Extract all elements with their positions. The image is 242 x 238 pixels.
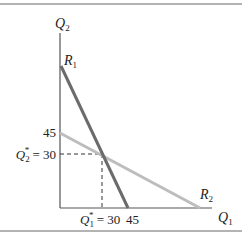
r1-label: R1 xyxy=(63,53,77,70)
x-tick-45: 45 xyxy=(126,212,139,227)
x-equilibrium-label: Q1* = 30 xyxy=(80,210,120,229)
y-equilibrium-label: Q2* = 30 xyxy=(16,145,56,164)
r1-reaction-curve xyxy=(61,66,128,208)
y-axis-label: Q2 xyxy=(55,16,70,33)
r2-reaction-curve xyxy=(60,133,200,208)
y-tick-45: 45 xyxy=(43,125,56,140)
r2-label: R2 xyxy=(199,187,213,204)
reaction-curve-diagram: Q2 Q1 R1 R2 45 Q2* = 30 Q1* = 30 45 xyxy=(0,0,242,238)
x-axis-label: Q1 xyxy=(218,210,233,227)
